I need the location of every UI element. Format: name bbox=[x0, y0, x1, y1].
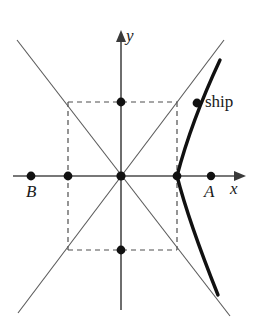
point-b-dot bbox=[27, 172, 36, 181]
point-a-label: A bbox=[204, 183, 214, 200]
vertex-dot bbox=[173, 172, 182, 181]
hyperbola-figure: y x A B ship bbox=[0, 0, 264, 328]
conjugate-top-dot bbox=[117, 98, 126, 107]
point-b-foot-dot bbox=[64, 172, 73, 181]
conjugate-bottom-dot bbox=[117, 246, 126, 255]
x-axis-label: x bbox=[230, 180, 238, 197]
axes-group bbox=[13, 30, 246, 310]
point-a-dot bbox=[207, 172, 215, 180]
point-b-label: B bbox=[26, 183, 36, 200]
ship-label: ship bbox=[205, 93, 233, 110]
figure-canvas bbox=[0, 0, 264, 328]
origin-dot bbox=[116, 171, 125, 180]
ship-dot bbox=[193, 99, 202, 108]
y-axis-arrowhead bbox=[116, 30, 126, 42]
y-axis-label: y bbox=[126, 27, 134, 44]
